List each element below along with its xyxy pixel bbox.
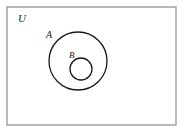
set-a-label: A (45, 29, 53, 40)
set-b-circle (70, 58, 92, 80)
venn-diagram-figure: U A B (0, 0, 184, 133)
venn-diagram-canvas: U A B (0, 0, 184, 133)
set-a-circle (49, 32, 107, 90)
set-b-label: B (69, 50, 75, 60)
universal-set-label: U (18, 12, 27, 24)
